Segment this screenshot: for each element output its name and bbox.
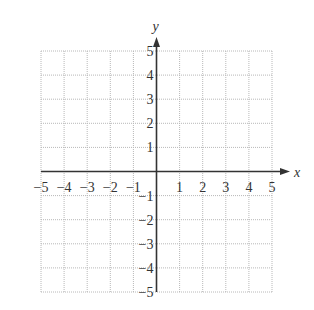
x-tick-label: 3 <box>222 180 229 195</box>
y-tick-label: −2 <box>139 213 154 228</box>
y-tick-label: 1 <box>147 140 154 155</box>
x-tick-label: −3 <box>80 180 95 195</box>
y-tick-label: −1 <box>139 189 154 204</box>
y-tick-label: 4 <box>147 68 154 83</box>
x-tick-label: 2 <box>199 180 206 195</box>
y-tick-label: 5 <box>147 44 154 59</box>
x-tick-label: −4 <box>57 180 72 195</box>
x-tick-label: 4 <box>245 180 252 195</box>
y-tick-label: 2 <box>147 116 154 131</box>
y-tick-label: −3 <box>139 237 154 252</box>
y-tick-label: 3 <box>147 92 154 107</box>
y-axis-arrow-icon <box>153 37 160 47</box>
x-tick-label: 1 <box>176 180 183 195</box>
x-tick-label: −5 <box>34 180 49 195</box>
x-tick-label: −2 <box>103 180 118 195</box>
x-axis-arrow-icon <box>280 168 290 175</box>
x-tick-label: 5 <box>269 180 276 195</box>
coordinate-plane: xy−5−4−3−2−11234554321−1−2−3−4−5 <box>0 0 314 310</box>
y-axis-label: y <box>151 19 160 34</box>
x-axis-label: x <box>293 165 301 180</box>
y-tick-label: −4 <box>139 261 154 276</box>
y-tick-label: −5 <box>139 285 154 300</box>
